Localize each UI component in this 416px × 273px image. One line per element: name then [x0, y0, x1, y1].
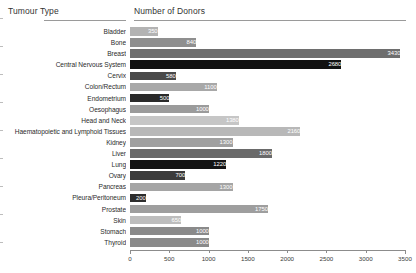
bar-row: Skin650 [0, 215, 416, 226]
bar-row: Lung1220 [0, 159, 416, 170]
bar-track: 1380 [130, 116, 406, 125]
edge-mark [0, 18, 3, 19]
edge-mark [0, 186, 3, 187]
bar-category-label: Ovary [0, 170, 126, 181]
bar-category-label: Kidney [0, 137, 126, 148]
axis-tick [326, 250, 327, 253]
bar-row: Thyroid1000 [0, 237, 416, 248]
bar-rows-container: Bladder350Bone840Breast3430Central Nervo… [0, 26, 416, 244]
bar-value-label: 200 [130, 194, 148, 203]
bar-category-label: Head and Neck [0, 115, 126, 126]
header-rule-right [134, 20, 406, 21]
bar-row: Head and Neck1380 [0, 115, 416, 126]
axis-tick-label: 0 [128, 255, 131, 262]
axis-tick-label: 1000 [202, 255, 216, 262]
edge-mark [0, 46, 3, 47]
bar-value-label: 580 [130, 72, 178, 81]
bar-category-label: Bladder [0, 26, 126, 37]
bar-category-label: Skin [0, 215, 126, 226]
bar-row: Pancreas1300 [0, 181, 416, 192]
bar-value-label: 1100 [130, 83, 219, 92]
bar-value-label: 1750 [130, 205, 271, 214]
bar-row: Bone840 [0, 37, 416, 48]
bar-row: Stomach1000 [0, 226, 416, 237]
bar-row: Cervix580 [0, 70, 416, 81]
bar-track: 1750 [130, 205, 406, 214]
bar-value-label: 1000 [130, 227, 211, 236]
bar-track: 1100 [130, 83, 406, 92]
bar-category-label: Central Nervous System [0, 59, 126, 70]
axis-tick [209, 250, 210, 253]
bar-category-label: Pancreas [0, 181, 126, 192]
bar-category-label: Pleura/Peritoneum [0, 192, 126, 203]
bar-row: Haematopoietic and Lymphoid Tissues2160 [0, 126, 416, 137]
bar-row: Endometrium500 [0, 93, 416, 104]
bar-track: 1000 [130, 238, 406, 247]
bar-row: Central Nervous System2680 [0, 59, 416, 70]
bar-value-label: 2160 [130, 127, 303, 136]
bar-value-label: 1800 [130, 149, 274, 158]
bar-category-label: Colon/Rectum [0, 81, 126, 92]
bar-value-label: 700 [130, 171, 188, 180]
bar-row: Kidney1300 [0, 137, 416, 148]
bar-value-label: 650 [130, 216, 184, 225]
x-axis: 0500100015002000250030003500 [130, 250, 406, 268]
donor-bar-chart: Tumour Type Number of Donors Bladder350B… [0, 0, 416, 273]
bar-value-label: 500 [130, 94, 172, 103]
bar-row: Liver1800 [0, 148, 416, 159]
bar-category-label: Lung [0, 159, 126, 170]
chart-header: Tumour Type Number of Donors [0, 6, 416, 26]
bar-value-label: 1300 [130, 138, 235, 147]
axis-line [130, 250, 406, 251]
bar-row: Colon/Rectum1100 [0, 81, 416, 92]
bar-value-label: 350 [130, 27, 160, 36]
edge-mark [0, 74, 3, 75]
axis-tick-label: 2000 [280, 255, 294, 262]
axis-tick [405, 250, 406, 253]
bar-value-label: 1000 [130, 105, 211, 114]
bar-value-label: 1380 [130, 116, 241, 125]
bar-row: Pleura/Peritoneum200 [0, 192, 416, 203]
bar-category-label: Cervix [0, 70, 126, 81]
bar-track: 200 [130, 194, 406, 203]
bar-row: Bladder350 [0, 26, 416, 37]
bar-value-label: 1220 [130, 160, 229, 169]
bar-track: 500 [130, 94, 406, 103]
bar-value-label: 1300 [130, 183, 235, 192]
bar-category-label: Oesophagus [0, 104, 126, 115]
bar-value-label: 840 [130, 38, 199, 47]
edge-mark [0, 214, 3, 215]
bar-category-label: Haematopoietic and Lymphoid Tissues [0, 126, 126, 137]
bar-track: 350 [130, 27, 406, 36]
bar-track: 580 [130, 72, 406, 81]
edge-mark [0, 130, 3, 131]
bar-value-label: 2680 [130, 60, 344, 69]
bar-row: Prostate1750 [0, 204, 416, 215]
axis-tick [287, 250, 288, 253]
bar-row: Oesophagus1000 [0, 104, 416, 115]
bar-category-label: Stomach [0, 226, 126, 237]
axis-tick-label: 2500 [320, 255, 334, 262]
header-rule-left [44, 20, 126, 21]
bar-category-label: Liver [0, 148, 126, 159]
bar-track: 3430 [130, 49, 406, 58]
axis-tick [248, 250, 249, 253]
bar-row: Ovary700 [0, 170, 416, 181]
bar-row: Breast3430 [0, 48, 416, 59]
axis-tick [130, 250, 131, 253]
bar-track: 2680 [130, 60, 406, 69]
bar-track: 1800 [130, 149, 406, 158]
bar-track: 700 [130, 171, 406, 180]
bar-value-label: 3430 [130, 49, 403, 58]
bar-track: 1300 [130, 183, 406, 192]
category-column-title: Tumour Type [8, 6, 59, 16]
axis-tick-label: 1500 [241, 255, 255, 262]
edge-mark [0, 158, 3, 159]
bar-track: 1000 [130, 105, 406, 114]
axis-tick-label: 3000 [359, 255, 373, 262]
bar-category-label: Prostate [0, 204, 126, 215]
bar-category-label: Breast [0, 48, 126, 59]
bar-track: 2160 [130, 127, 406, 136]
bar-value-label: 1000 [130, 238, 211, 247]
bar-track: 840 [130, 38, 406, 47]
